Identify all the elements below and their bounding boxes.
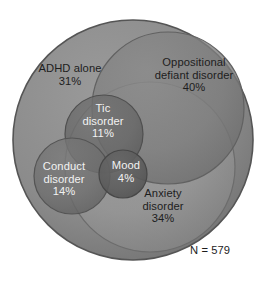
euler-diagram-figure: ADHD alone 31% Oppositional defiant diso… — [0, 0, 266, 285]
euler-diagram-svg — [0, 0, 266, 285]
set-circle-mood — [99, 150, 147, 198]
